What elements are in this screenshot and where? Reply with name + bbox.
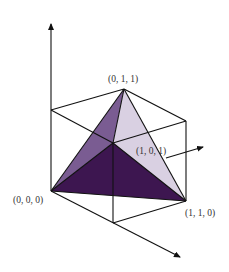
cube-tetrahedron-diagram: (0, 1, 1) (1, 0, 1) (0, 0, 0) (1, 1, 0) (0, 0, 229, 272)
label-vertex-101: (1, 0, 1) (136, 146, 166, 157)
label-vertex-000: (0, 0, 0) (13, 195, 43, 206)
label-vertex-011: (0, 1, 1) (108, 74, 138, 85)
label-vertex-110: (1, 1, 0) (185, 208, 215, 219)
cube-edge-bottom-right (113, 201, 186, 223)
y-axis (166, 147, 203, 158)
x-axis (51, 191, 180, 257)
